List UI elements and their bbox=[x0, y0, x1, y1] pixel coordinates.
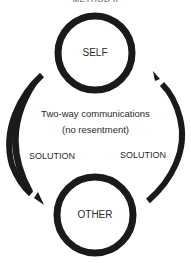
diagram-title: METHOD II bbox=[0, 0, 191, 4]
right-edge-label: SOLUTION bbox=[115, 150, 171, 160]
center-text-line2: (no resentment) bbox=[30, 124, 161, 135]
diagram: METHOD II SELF Two-way communications (n… bbox=[0, 0, 191, 263]
right-arrowhead-icon bbox=[153, 71, 160, 81]
center-text-line1: Two-way communications bbox=[30, 108, 161, 119]
other-node-label: OTHER bbox=[65, 209, 125, 220]
self-node-label: SELF bbox=[70, 47, 120, 58]
left-arrowhead-icon bbox=[34, 192, 44, 205]
left-edge-label: SOLUTION bbox=[24, 151, 80, 161]
right-arrow-arc-body bbox=[148, 84, 182, 201]
